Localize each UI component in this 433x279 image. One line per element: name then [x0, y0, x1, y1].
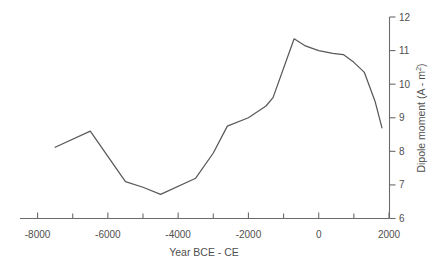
- x-tick-label: -2000: [236, 229, 262, 240]
- x-tick-label: -4000: [165, 229, 191, 240]
- y-tick-label: 11: [399, 45, 410, 56]
- x-axis-tick-labels: -8000-6000-4000-200002000: [25, 229, 401, 240]
- y-axis-title: Dipole moment (A - m2): [414, 63, 428, 172]
- y-axis: 6789101112 Dipole moment (A - m2): [390, 12, 428, 225]
- y-tick-label: 6: [399, 213, 405, 224]
- series-line-geomagnetic-dipole-moment: [55, 39, 382, 194]
- x-axis-tick-marks: [38, 213, 389, 219]
- y-tick-label: 8: [399, 146, 405, 157]
- y-axis-tick-labels: 6789101112: [399, 12, 411, 225]
- y-tick-label: 7: [399, 179, 405, 190]
- y-tick-label: 12: [399, 12, 411, 23]
- x-tick-label: -8000: [25, 229, 51, 240]
- y-tick-label: 9: [399, 112, 405, 123]
- x-tick-label: 2000: [378, 229, 401, 240]
- x-axis-title: Year BCE - CE: [169, 246, 239, 258]
- y-axis-tick-marks: [390, 17, 396, 219]
- x-tick-label: -6000: [95, 229, 121, 240]
- chart-figure: -8000-6000-4000-200002000 Year BCE - CE …: [0, 0, 433, 279]
- y-tick-label: 10: [399, 79, 411, 90]
- x-tick-label: 0: [316, 229, 322, 240]
- dipole-moment-line-chart: -8000-6000-4000-200002000 Year BCE - CE …: [0, 0, 433, 279]
- figure-caption-strip: [0, 272, 433, 279]
- x-axis: -8000-6000-4000-200002000 Year BCE - CE: [20, 213, 401, 259]
- plot-area: [55, 39, 382, 194]
